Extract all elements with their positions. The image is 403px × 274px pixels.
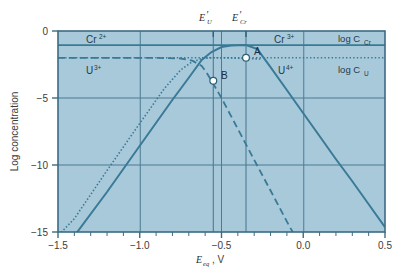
region-label-u4plus-sup: 4+ (286, 64, 294, 71)
region-label-u4plus-text: U (278, 65, 285, 76)
region-label-u3plus-text: U (86, 65, 93, 76)
x-tick-label-0.5: 0.5 (378, 240, 392, 251)
y-tick-label--5: −5 (37, 93, 49, 104)
point-b-label: B (221, 70, 228, 81)
region-label-cr2plus-sup: 2+ (99, 33, 107, 40)
point-b-marker (210, 77, 217, 84)
x-axis-title-unit: , V (212, 254, 225, 265)
label-E-prime-Cr-sub: Cr (240, 18, 247, 25)
x-tick-label-0.0: 0.0 (296, 240, 310, 251)
legend-log-c-u-text: log C (338, 64, 360, 75)
label-E-prime-Cr-main: E (231, 12, 238, 23)
y-axis-title: Log concentration (9, 92, 20, 172)
legend-log-c-cr-text: log C (338, 33, 360, 44)
label-E-prime-U-main: E (198, 12, 205, 23)
legend-log-c-u-sub: U (364, 70, 369, 77)
region-label-cr3plus-sup: 3+ (287, 33, 295, 40)
region-label-cr2plus-text: Cr (86, 34, 97, 45)
x-tick-label--1.5: −1.5 (48, 240, 68, 251)
x-axis-title-main: E (195, 254, 202, 265)
x-tick-label--1.0: −1.0 (130, 240, 150, 251)
x-axis-title-sub: eq (203, 260, 210, 267)
legend-log-c-cr-sub: Cr (364, 39, 372, 46)
y-tick-label--10: −10 (31, 160, 48, 171)
point-a-marker (243, 54, 250, 61)
point-a-label: A (254, 46, 261, 57)
x-tick-label--0.5: −0.5 (212, 240, 232, 251)
chart-figure: −1.5 −1.0 −0.5 0.0 0.5 0 −5 −10 −15 Log … (0, 0, 403, 274)
y-tick-label--15: −15 (31, 227, 48, 238)
chart-svg: −1.5 −1.0 −0.5 0.0 0.5 0 −5 −10 −15 Log … (0, 0, 403, 274)
region-label-cr3plus-text: Cr (274, 34, 285, 45)
region-label-u3plus-sup: 3+ (94, 64, 102, 71)
y-tick-label-0: 0 (42, 26, 48, 37)
